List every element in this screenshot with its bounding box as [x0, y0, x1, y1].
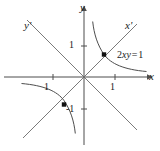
tick-label-x-left-one: 1 [44, 82, 49, 92]
equation-label: 2xy = 1 [117, 50, 143, 60]
x-axis-label: x [149, 71, 154, 82]
equation-relation: = [132, 49, 138, 60]
x-prime-axis-label: x' [125, 20, 132, 31]
hyperbola-branch-upper-right [93, 22, 147, 72]
tick-label-y-negative-one: -1 [66, 104, 74, 114]
y-prime-axis-line [27, 20, 137, 130]
y-prime-axis-label: y' [24, 20, 31, 31]
hyperbola-figure: y x y' x' 1 -1 1 1 2xy = 1 [0, 0, 160, 151]
equation-variables: xy [122, 49, 131, 60]
y-axis-label: y [80, 2, 85, 13]
x-axis [4, 74, 153, 80]
tick-label-x-right-one: 1 [110, 82, 115, 92]
vertex-marker-upper-right [102, 52, 106, 56]
x-prime-axis-line [23, 24, 137, 138]
tick-label-y-positive-one: 1 [69, 40, 74, 50]
equation-constant: 1 [138, 49, 143, 60]
